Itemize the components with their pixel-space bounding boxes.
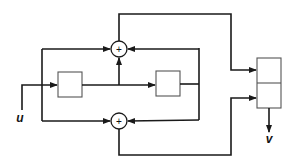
bottom-output-wire	[119, 98, 256, 155]
block-left	[58, 72, 82, 97]
sum-junction-bottom: +	[111, 113, 127, 129]
block-diagram: + + u v	[0, 0, 294, 164]
middle-wire	[82, 58, 155, 85]
svg-text:+: +	[116, 44, 122, 55]
input-label: u	[16, 111, 24, 125]
top-output-wire	[119, 14, 256, 70]
sum-junction-top: +	[111, 41, 127, 57]
output-register	[257, 58, 281, 108]
output-label: v	[266, 132, 274, 146]
block-right	[156, 71, 180, 96]
input-wire	[22, 85, 57, 110]
svg-text:+: +	[116, 116, 122, 127]
